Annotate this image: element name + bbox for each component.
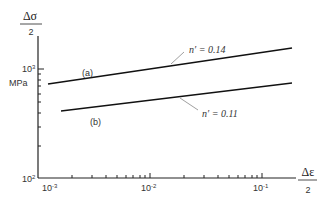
y-ticks [38, 69, 44, 146]
x-axis-label-num: Δε [302, 165, 315, 179]
chart: Δσ 2 103 MPa 102 10-3 10-2 10-1 Δε 2 (a)… [0, 0, 317, 203]
series-a-line [48, 48, 292, 84]
xtick-0.01: 10-2 [141, 183, 157, 193]
series-b-line [61, 83, 292, 111]
y-axis-label-den: 2 [28, 27, 33, 37]
y-axis-label-num: Δσ [23, 9, 38, 23]
series-b-label: (b) [90, 117, 101, 127]
ytick-100: 102 [22, 174, 36, 184]
annotation-n-a: n′ = 0.14 [189, 44, 225, 55]
leader-a [171, 52, 184, 64]
annotation-n-b: n′ = 0.11 [202, 108, 238, 119]
leader-b [180, 98, 198, 110]
x-ticks [72, 173, 262, 178]
ytick-1000: 103 [22, 64, 36, 74]
x-axis-label-den: 2 [305, 185, 310, 195]
xtick-0.001: 10-3 [42, 183, 58, 193]
series-a-label: (a) [82, 68, 93, 78]
y-unit: MPa [9, 78, 28, 88]
xtick-0.1: 10-1 [253, 183, 269, 193]
